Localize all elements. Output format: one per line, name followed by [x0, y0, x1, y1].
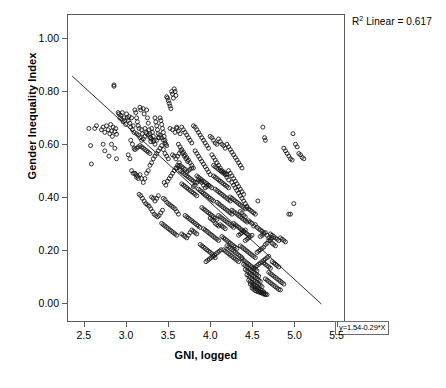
x-tick-mark	[168, 322, 169, 327]
x-axis-ticks: 2.53.03.54.04.55.05.5	[0, 0, 446, 388]
scatter-plot-figure: y=1.54-0.29*X 0.000.200.400.600.801.00 G…	[0, 0, 446, 388]
x-tick-label: 2.5	[64, 330, 104, 341]
x-tick-label: 3.5	[148, 330, 188, 341]
x-tick-mark	[294, 322, 295, 327]
x-tick-label: 3.0	[106, 330, 146, 341]
x-tick-mark	[126, 322, 127, 327]
r-squared-annotation: R2 Linear = 0.617	[352, 16, 432, 27]
x-tick-mark	[252, 322, 253, 327]
x-tick-mark	[210, 322, 211, 327]
x-tick-label: 5.0	[274, 330, 314, 341]
x-tick-label: 5.5	[317, 330, 357, 341]
x-tick-label: 4.0	[190, 330, 230, 341]
x-axis-title: GNI, logged	[67, 349, 345, 361]
x-tick-mark	[337, 322, 338, 327]
r-squared-value-text: Linear = 0.617	[363, 16, 432, 27]
x-tick-label: 4.5	[232, 330, 272, 341]
x-tick-mark	[84, 322, 85, 327]
